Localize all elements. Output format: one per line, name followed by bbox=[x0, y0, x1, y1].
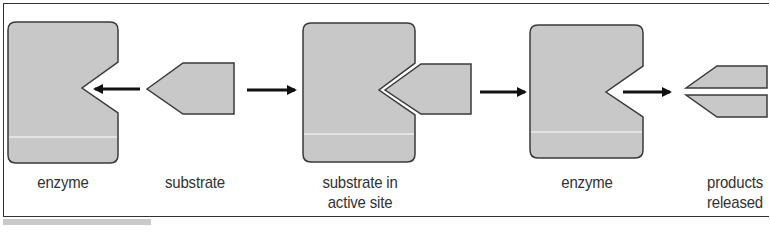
label-products-line1: products bbox=[695, 173, 770, 193]
label-substrate: substrate bbox=[155, 173, 234, 193]
label-enzyme-2: enzyme bbox=[547, 173, 626, 193]
label-products-line2: released bbox=[695, 193, 770, 213]
products-shape bbox=[686, 66, 767, 117]
label-complex-line1: substrate in bbox=[307, 173, 413, 193]
label-enzyme-1: enzyme bbox=[23, 173, 102, 193]
enzyme-shape-1 bbox=[8, 22, 118, 163]
substrate-shape bbox=[147, 63, 234, 114]
label-complex-line2: active site bbox=[307, 193, 413, 213]
enzyme-substrate-complex-shape bbox=[303, 23, 471, 162]
